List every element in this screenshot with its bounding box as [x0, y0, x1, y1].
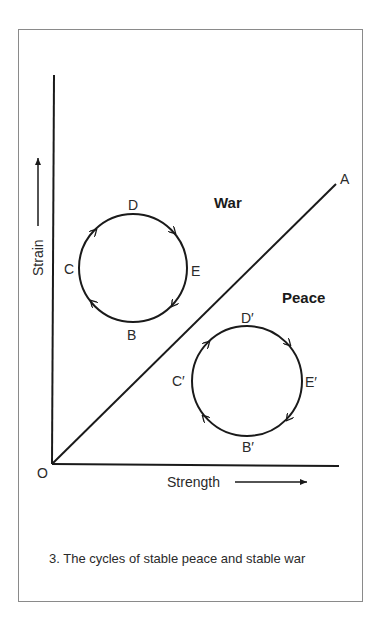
war-cycle-label-b: B [127, 327, 136, 343]
x-axis-label: Strength [167, 474, 220, 490]
y-axis [52, 75, 54, 464]
peace-cycle: D′ E′ B′ C′ [172, 310, 317, 455]
y-axis-label-group: Strain [30, 158, 46, 276]
peace-cycle-label-d-prime: D′ [241, 310, 254, 326]
peace-cycle-label-b-prime: B′ [242, 439, 254, 455]
peace-cycle-circle [192, 326, 302, 436]
war-cycle-circle [79, 214, 187, 322]
peace-cycle-label-e-prime: E′ [305, 374, 317, 390]
region-label-war: War [214, 194, 242, 211]
figure-caption: 3. The cycles of stable peace and stable… [49, 551, 339, 567]
war-cycle: D E B C [64, 197, 200, 343]
war-cycle-label-e: E [191, 263, 200, 279]
origin-label: O [37, 465, 48, 481]
peace-cycle-label-c-prime: C′ [172, 373, 185, 389]
war-cycle-label-c: C [64, 261, 74, 277]
line-end-label-a: A [340, 171, 350, 187]
boundary-line-oa [52, 184, 336, 464]
x-axis-label-group: Strength [167, 474, 307, 490]
cycles-diagram: O A Strain Strength War Peace D E B C D′… [0, 0, 378, 626]
y-axis-label: Strain [30, 239, 46, 276]
x-axis [52, 464, 339, 466]
region-label-peace: Peace [282, 289, 325, 306]
war-cycle-label-d: D [128, 197, 138, 213]
